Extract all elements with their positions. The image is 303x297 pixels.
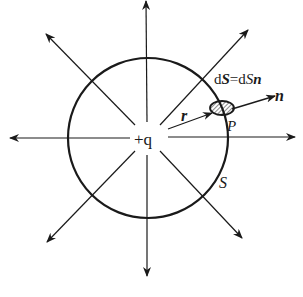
field-line-down-right [160, 151, 242, 238]
field-lines [10, 1, 295, 276]
radius-vector [168, 113, 212, 129]
radius-label: r [181, 107, 188, 124]
surface-label: S [219, 174, 227, 191]
normal-vector [232, 96, 275, 109]
field-line-up [146, 1, 147, 122]
area-element-label: dS=dSn [214, 71, 262, 87]
charge-label: +q [134, 130, 153, 149]
point-label: P [226, 118, 236, 134]
field-line-up-left [46, 34, 135, 125]
gauss-diagram: +q r n P S dS=dSn [0, 0, 303, 297]
field-line-down-left [47, 151, 135, 242]
normal-label: n [275, 87, 284, 104]
area-element [210, 101, 234, 115]
